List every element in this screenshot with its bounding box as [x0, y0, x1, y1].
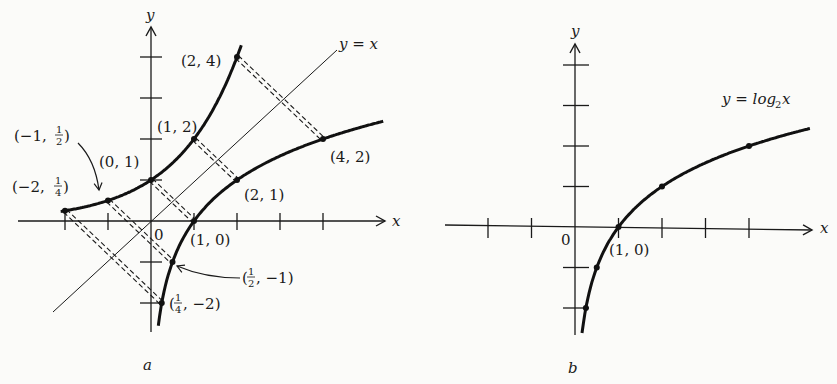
data-point	[320, 136, 326, 142]
point-label-quarter-neg2: ( 1 4 , −2)	[169, 292, 221, 315]
curve-label-subscript: 2	[775, 99, 781, 110]
data-point	[191, 218, 197, 224]
panel-b-x-axis-label: x	[820, 219, 829, 237]
pointer-arrow-half-neg1	[177, 266, 240, 278]
panel-a-origin-label: 0	[154, 226, 164, 244]
panel-b-marks	[582, 129, 810, 334]
point-label-half-neg1: ( 1 2 , −1)	[242, 266, 294, 289]
reflection-dash	[193, 140, 236, 181]
panel-a-caption: a	[143, 356, 152, 374]
panel-b-caption: b	[568, 359, 578, 377]
reflection-dash	[236, 58, 322, 140]
label-tail: )	[64, 127, 70, 145]
point-label-2-4: (2, 4)	[181, 52, 221, 70]
panel-b-axes	[445, 44, 812, 335]
reflection-dash	[152, 179, 195, 220]
label-tail: )	[63, 178, 69, 196]
data-point	[594, 265, 600, 271]
data-point	[616, 224, 622, 230]
point-label-neg1-half: (−1, 1 2 )	[14, 124, 70, 147]
curve-label-log2: y = log 2 x	[721, 90, 791, 110]
panel-a: y x 0 y = x (2, 4) (1, 2) (0, 1) (4, 2) …	[12, 6, 401, 374]
panel-b-point-label-1-0: (1, 0)	[609, 241, 649, 259]
label-denominator: 2	[56, 136, 62, 147]
panel-b-origin-label: 0	[561, 231, 571, 249]
label-denominator: 4	[175, 304, 181, 315]
panel-a-axes	[18, 27, 385, 332]
reflection-dash	[195, 138, 238, 179]
curve-logarithm	[582, 129, 810, 334]
figure: y x 0 y = x (2, 4) (1, 2) (0, 1) (4, 2) …	[0, 0, 837, 384]
data-point	[583, 305, 589, 311]
label-main: (	[169, 295, 175, 313]
panel-a-marks	[53, 45, 383, 326]
label-numerator: 1	[175, 292, 181, 303]
label-numerator: 1	[55, 175, 61, 186]
data-point	[159, 300, 165, 306]
identity-line-label: y = x	[338, 35, 379, 53]
x-axis	[445, 225, 812, 230]
curve-label-main: y = log	[721, 90, 776, 108]
data-point	[234, 54, 240, 60]
label-main: (−1,	[14, 127, 47, 145]
point-label-2-1: (2, 1)	[244, 186, 284, 204]
label-numerator: 1	[56, 124, 62, 135]
label-denominator: 4	[55, 187, 61, 198]
data-point	[105, 198, 111, 204]
data-point	[746, 143, 752, 149]
data-point	[191, 136, 197, 142]
data-point	[170, 259, 176, 265]
panel-b: y x 0 (1, 0) y = log 2 x b	[445, 22, 829, 377]
reflection-dash	[238, 56, 324, 138]
data-point	[62, 208, 68, 214]
data-point	[148, 177, 154, 183]
panel-b-y-axis-label: y	[570, 22, 580, 40]
data-point	[659, 184, 665, 190]
pointer-arrow-neg1-half	[78, 143, 99, 190]
label-main: (	[242, 269, 248, 287]
label-main: (−2,	[12, 178, 45, 196]
point-label-4-2: (4, 2)	[330, 148, 370, 166]
panel-a-x-axis-label: x	[392, 212, 401, 230]
label-tail: , −1)	[256, 269, 294, 287]
data-point	[234, 177, 240, 183]
point-label-1-2: (1, 2)	[157, 118, 197, 136]
label-denominator: 2	[248, 278, 254, 289]
curve-label-tail: x	[782, 90, 791, 108]
panel-a-y-axis-label: y	[145, 6, 155, 24]
point-label-0-1: (0, 1)	[99, 153, 139, 171]
label-numerator: 1	[248, 266, 254, 277]
point-label-1-0: (1, 0)	[190, 231, 230, 249]
label-tail: , −2)	[183, 295, 221, 313]
point-label-neg2-quarter: (−2, 1 4 )	[12, 175, 69, 198]
